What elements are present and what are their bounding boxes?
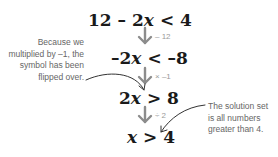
down-arrow-icon — [139, 28, 151, 43]
down-arrow-icon — [139, 107, 151, 122]
step-label-divide-2: ÷ 2 — [155, 111, 166, 120]
pointer-arrow-icon — [161, 105, 205, 132]
down-arrow-icon — [139, 68, 151, 83]
note-solution-set: The solution set is all numbers greater … — [208, 101, 270, 136]
note-flipped-symbol: Because we multiplied by –1, the symbol … — [8, 37, 84, 83]
step-label-multiply-neg1: × –1 — [155, 72, 171, 81]
step-label-subtract-12: – 12 — [155, 32, 171, 41]
pointer-arrow-icon — [86, 74, 145, 90]
